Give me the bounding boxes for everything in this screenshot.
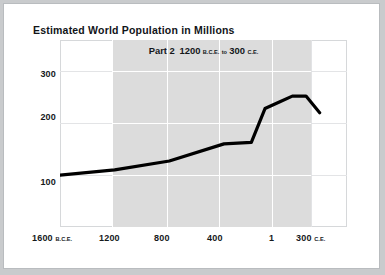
x-tick-1ce-value: 1	[269, 233, 274, 243]
y-tick-100: 100	[26, 177, 56, 187]
y-tick-200: 200	[26, 112, 56, 122]
page-title: Estimated World Population in Millions	[33, 24, 235, 36]
x-tick-1600: 1600 B.C.E.	[32, 233, 72, 243]
x-tick-1600-era: B.C.E.	[56, 236, 72, 242]
population-line-series	[60, 40, 347, 227]
x-tick-1ce: 1	[269, 233, 274, 243]
x-tick-1200-value: 1200	[99, 233, 120, 243]
x-tick-400-value: 400	[207, 233, 223, 243]
chart-plot-area: Part 2 1200 B.C.E. to 300 C.E.	[60, 40, 347, 227]
x-tick-1200: 1200	[99, 233, 120, 243]
page-sheet: Estimated World Population in Millions P…	[3, 3, 380, 269]
y-tick-300: 300	[26, 69, 56, 79]
x-tick-300ce-value: 300	[296, 233, 312, 243]
x-tick-800: 800	[154, 233, 170, 243]
population-line-path	[60, 96, 320, 175]
x-tick-400: 400	[207, 233, 223, 243]
x-tick-800-value: 800	[154, 233, 170, 243]
x-tick-1600-value: 1600	[32, 233, 53, 243]
x-tick-300ce-era: C.E.	[314, 236, 325, 242]
x-tick-300ce: 300 C.E.	[296, 233, 325, 243]
